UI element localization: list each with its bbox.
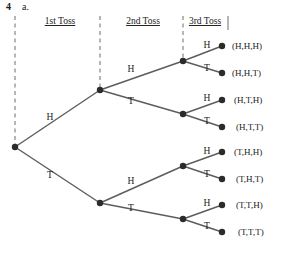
column-header-1: 1st Toss	[45, 16, 76, 26]
edge-th-thh	[183, 152, 222, 166]
branch-label-root-t: T	[47, 170, 53, 180]
branch-label-ht-hth: H	[204, 93, 211, 103]
node-h	[97, 87, 103, 93]
node-hh	[180, 58, 186, 64]
branch-labels: HTHTHTHTHTHTHT	[47, 40, 211, 231]
column-header-2: 2nd Toss	[126, 16, 160, 26]
outcome-tht: (T,H,T)	[236, 174, 263, 184]
edge-ht-hth	[183, 100, 222, 114]
branch-label-ht-htt: T	[204, 116, 210, 126]
branch-label-tt-tth: H	[204, 198, 211, 208]
leaf-tth	[219, 202, 225, 208]
outcome-hth: (H,T,H)	[234, 95, 262, 105]
branch-label-t-th: H	[128, 176, 135, 186]
branch-label-t-tt: T	[128, 203, 134, 213]
branch-label-root-h: H	[47, 112, 54, 122]
edge-t-th	[100, 166, 183, 203]
probability-tree-figure: 4 a. 1st Toss2nd Toss3rd Toss HTHTHTHTHT…	[0, 0, 282, 253]
branch-label-hh-hhh: H	[204, 40, 211, 50]
outcome-ttt: (T,T,T)	[238, 227, 264, 237]
column-headers: 1st Toss2nd Toss3rd Toss	[45, 16, 222, 26]
edge-th-tht	[183, 166, 222, 179]
branch-label-h-hh: H	[128, 64, 135, 74]
branch-label-th-tht: T	[204, 169, 210, 179]
branch-label-h-ht: T	[128, 96, 134, 106]
branch-label-th-thh: H	[204, 146, 211, 156]
edge-hh-hhh	[183, 46, 222, 61]
leaf-tht	[219, 176, 225, 182]
root-node	[12, 144, 18, 150]
column-dividers	[15, 16, 228, 147]
branch-label-hh-hht: T	[204, 63, 210, 73]
leaf-htt	[219, 124, 225, 130]
edge-h-hh	[100, 61, 183, 90]
outcome-tth: (T,T,H)	[236, 200, 263, 210]
edge-hh-hht	[183, 61, 222, 73]
leaf-ttt	[219, 229, 225, 235]
coin-toss-tree-diagram: 1st Toss2nd Toss3rd Toss HTHTHTHTHTHTHT …	[0, 0, 282, 253]
node-tt	[180, 216, 186, 222]
leaf-hth	[219, 97, 225, 103]
edge-tt-ttt	[183, 219, 222, 232]
branch-label-tt-ttt: T	[204, 221, 210, 231]
tree-edges	[15, 46, 222, 232]
leaf-hhh	[219, 43, 225, 49]
edge-root-t	[15, 147, 100, 203]
outcome-hht: (H,H,T)	[232, 68, 261, 78]
outcome-hhh: (H,H,H)	[232, 41, 262, 51]
outcome-labels: (H,H,H)(H,H,T)(H,T,H)(H,T,T)(T,H,H)(T,H,…	[232, 41, 264, 237]
leaf-hht	[219, 70, 225, 76]
outcome-thh: (T,H,H)	[234, 147, 262, 157]
outcome-htt: (H,T,T)	[236, 122, 263, 132]
edge-root-h	[15, 90, 100, 147]
node-ht	[180, 111, 186, 117]
node-th	[180, 163, 186, 169]
edge-h-ht	[100, 90, 183, 114]
edge-ht-htt	[183, 114, 222, 127]
node-t	[97, 200, 103, 206]
column-header-3: 3rd Toss	[189, 16, 221, 26]
edge-t-tt	[100, 203, 183, 219]
edge-tt-tth	[183, 205, 222, 219]
leaf-thh	[219, 149, 225, 155]
